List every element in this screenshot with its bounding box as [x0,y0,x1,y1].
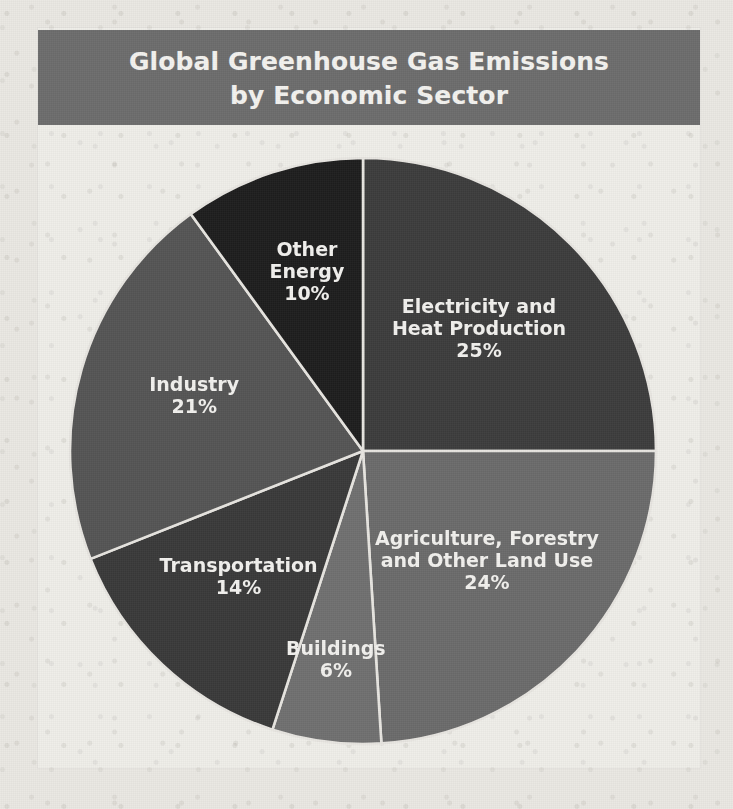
figure-panel [38,28,700,768]
chart-title-line-2: by Economic Sector [230,79,508,112]
chart-title-line-1: Global Greenhouse Gas Emissions [129,45,609,78]
chart-title-banner: Global Greenhouse Gas Emissions by Econo… [38,30,700,125]
scanned-page: . Global Greenhouse Gas Emissions by Eco… [0,0,733,809]
